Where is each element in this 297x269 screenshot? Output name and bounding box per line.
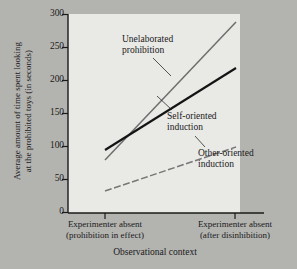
y-tick-text-0: 0: [36, 207, 64, 217]
series-label-other-line1: Other-oriented: [198, 148, 293, 159]
series-label-unelaborated-prohibition: Unelaborated prohibition: [122, 34, 217, 56]
leader-line-unelaborated: [153, 58, 171, 76]
x-tick-label-left: Experimenter absent (prohibition in effe…: [45, 219, 165, 241]
y-tick-label-200: 200: [36, 75, 64, 85]
y-tick-label-50: 50: [36, 174, 64, 184]
y-tick-text-150: 150: [36, 108, 64, 118]
series-label-other-oriented-induction: Other-oriented induction: [198, 148, 293, 170]
y-tick-text-50: 50: [36, 174, 64, 184]
series-label-other-line2: induction: [198, 159, 293, 170]
series-label-self-line1: Self-oriented: [167, 111, 252, 122]
y-tick-label-250: 250: [36, 42, 64, 52]
y-tick-label-150: 150: [36, 108, 64, 118]
series-label-unelaborated-line2: prohibition: [122, 45, 217, 56]
y-axis-title-line2: at the prohibited toys (in seconds): [23, 21, 34, 201]
x-tick-label-left-line1: Experimenter absent: [45, 219, 165, 230]
x-tick-label-left-line2: (prohibition in effect): [45, 230, 165, 241]
y-tick-label-100: 100: [36, 141, 64, 151]
y-axis-title-line1: Average amount of time spent looking: [12, 21, 23, 201]
leader-line-other: [195, 136, 205, 147]
y-tick-text-250: 250: [36, 42, 64, 52]
series-label-unelaborated-line1: Unelaborated: [122, 34, 217, 45]
figure-container: 300 250 200 150 100 50 0 Average amount …: [0, 0, 297, 269]
y-tick-text-100: 100: [36, 141, 64, 151]
y-tick-text-200: 200: [36, 75, 64, 85]
y-tick-text-300: 300: [36, 9, 64, 19]
series-label-self-oriented-induction: Self-oriented induction: [167, 111, 252, 133]
y-tick-label-300: 300: [36, 9, 64, 19]
x-tick-label-right: Experimenter absent (after disinhibition…: [175, 219, 295, 241]
x-tick-label-right-line2: (after disinhibition): [175, 230, 295, 241]
x-tick-label-right-line1: Experimenter absent: [175, 219, 295, 230]
x-axis-title: Observational context: [60, 247, 250, 257]
y-tick-label-0: 0: [36, 207, 64, 217]
series-label-self-line2: induction: [167, 122, 252, 133]
y-axis-title: Average amount of time spent looking at …: [12, 21, 34, 201]
